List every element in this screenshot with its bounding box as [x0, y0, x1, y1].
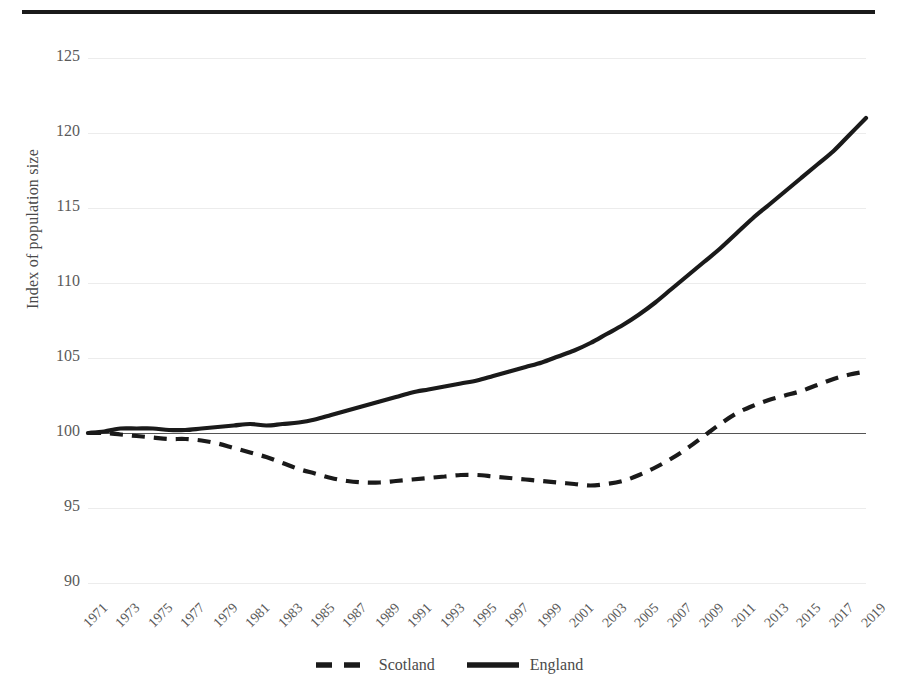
legend-swatch-solid	[465, 660, 521, 670]
legend-label-england: England	[530, 656, 583, 674]
chart-container: Index of population size 909510010511011…	[0, 0, 897, 696]
legend-item-england[interactable]: England	[465, 656, 583, 674]
series-line-england	[88, 118, 866, 433]
chart-legend: Scotland England	[0, 656, 897, 674]
plot-lines	[0, 0, 897, 696]
legend-swatch-dashed	[314, 660, 370, 670]
legend-item-scotland[interactable]: Scotland	[314, 656, 435, 674]
legend-label-scotland: Scotland	[379, 656, 435, 674]
